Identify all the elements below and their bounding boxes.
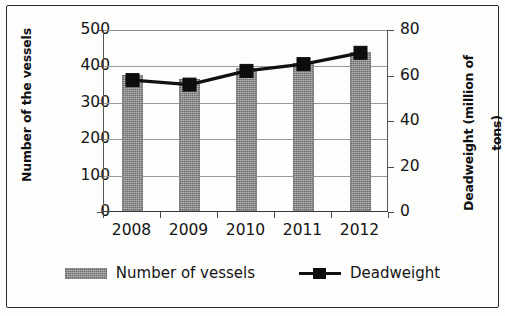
x-axis-label-2010: 2010 (216, 221, 276, 239)
right-tick-label-20: 20 (400, 159, 460, 174)
line-series (104, 30, 389, 212)
x-tick-mark-1 (160, 212, 161, 218)
right-tick-label-80: 80 (400, 22, 460, 37)
legend-label-vessels: Number of vessels (116, 264, 255, 282)
right-tick-label-40: 40 (400, 113, 460, 128)
right-axis-title: Deadweight (million of tons) (448, 38, 504, 228)
marker-2009 (183, 78, 196, 91)
marker-2012 (354, 46, 367, 59)
legend-item-deadweight: Deadweight (299, 264, 440, 282)
line-marker-swatch-icon (299, 266, 341, 280)
legend-square-marker-icon (313, 268, 326, 279)
marker-2010 (240, 64, 253, 77)
x-tick-mark-3 (274, 212, 275, 218)
right-axis-title-line1: Deadweight (million of (461, 55, 476, 211)
chart-legend: Number of vessels Deadweight (0, 264, 505, 282)
right-axis-title-line2: tons) (489, 115, 504, 151)
plot-area (103, 30, 388, 212)
x-axis-label-2011: 2011 (273, 221, 333, 239)
legend-label-deadweight: Deadweight (350, 264, 440, 282)
x-tick-mark-5 (388, 212, 389, 218)
marker-2008 (126, 74, 139, 87)
x-axis-label-2012: 2012 (330, 221, 390, 239)
right-tick-label-0: 0 (400, 204, 460, 219)
legend-item-vessels: Number of vessels (65, 264, 255, 282)
left-axis-title: Number of the vessels (20, 15, 34, 195)
chart-figure: Number of the vessels Deadweight (millio… (0, 0, 505, 316)
x-axis-label-2008: 2008 (102, 221, 162, 239)
deadweight-markers (126, 46, 367, 91)
bar-swatch-icon (65, 268, 107, 279)
right-tick-label-60: 60 (400, 68, 460, 83)
x-axis-label-2009: 2009 (159, 221, 219, 239)
x-tick-mark-0 (103, 212, 104, 218)
x-tick-mark-4 (331, 212, 332, 218)
x-tick-mark-2 (217, 212, 218, 218)
marker-2011 (297, 58, 310, 71)
